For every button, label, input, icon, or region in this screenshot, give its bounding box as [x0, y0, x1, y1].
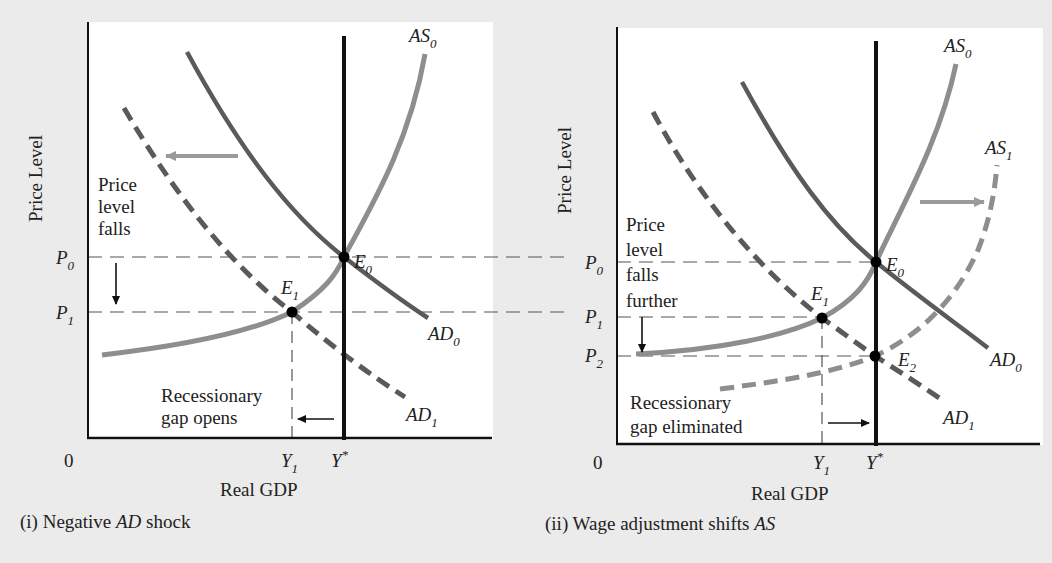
figure-stage: Price Level Price level falls Recessiona…: [0, 0, 1052, 563]
ad-as-diagram: Price Level Price level falls Recessiona…: [0, 0, 1052, 563]
ystar-label-right: Y*: [866, 449, 884, 473]
p0-label-left: P0: [55, 247, 75, 273]
origin-label-right: 0: [593, 452, 603, 473]
origin-label-left: 0: [64, 450, 74, 471]
caption-left: (i) Negative AD shock: [20, 511, 191, 533]
panel-left: Price Level Price level falls Recessiona…: [20, 22, 568, 533]
e2-point-right: [870, 351, 881, 362]
p1-label-left: P1: [55, 302, 74, 328]
e0-point: [339, 252, 350, 263]
p1-label-right: P1: [584, 306, 603, 332]
plot-area-left: [88, 22, 493, 440]
panel-right: Price Level Price level falls further Re…: [545, 27, 1043, 535]
ystar-label-left: Y*: [331, 447, 349, 471]
plot-area-right: [617, 28, 1043, 445]
x-axis-title-left: Real GDP: [220, 479, 298, 500]
y1-label-left: Y1: [281, 450, 298, 476]
p0-label-right: P0: [584, 252, 604, 278]
caption-right: (ii) Wage adjustment shifts AS: [545, 513, 776, 535]
p2-label-right: P2: [584, 345, 604, 371]
e0-point-right: [871, 257, 882, 268]
e1-point-right: [817, 313, 828, 324]
x-axis-title-right: Real GDP: [751, 483, 829, 504]
e1-point: [287, 307, 298, 318]
y1-label-right: Y1: [813, 452, 830, 478]
y-axis-title-left: Price Level: [25, 135, 46, 222]
y-axis-title-right: Price Level: [554, 127, 575, 214]
